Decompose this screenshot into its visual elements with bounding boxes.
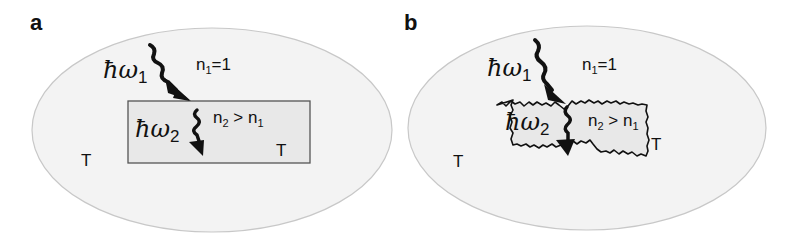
inner-temperature-label: T xyxy=(276,141,286,160)
inner-temperature-label: T xyxy=(651,135,661,154)
figure-canvas: a ħω1 ħω2 n1=1 n2 > n1 T T b xyxy=(0,0,795,243)
panel-b: b ħω1 ħω2 n1=1 n2 > n1 T T xyxy=(404,10,766,230)
panel-a: a ħω1 ħω2 n1=1 n2 > n1 T T xyxy=(30,10,392,232)
panel-a-label: a xyxy=(30,10,43,35)
outer-refractive-index: n1=1 xyxy=(582,55,617,76)
panel-b-label: b xyxy=(404,10,417,35)
outer-temperature-label: T xyxy=(453,152,463,171)
outer-temperature-label: T xyxy=(81,151,91,170)
inner-refractive-index: n2 > n1 xyxy=(213,108,264,129)
outer-refractive-index: n1=1 xyxy=(196,55,231,76)
inner-refractive-index: n2 > n1 xyxy=(588,111,639,132)
